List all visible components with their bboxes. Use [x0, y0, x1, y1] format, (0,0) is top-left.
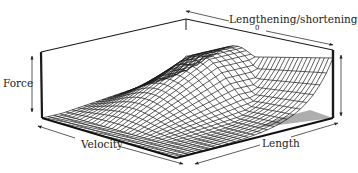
lengthening-arrow-left	[186, 11, 229, 21]
velocity-arrow-left	[38, 126, 75, 138]
plot-box	[41, 19, 333, 118]
lengthening-shortening-axis-label: Lengthening/shortening	[229, 14, 358, 25]
velocity-axis-label: Velocity	[81, 139, 123, 150]
force-axis-label: Force	[3, 78, 33, 89]
zero-velocity-tick: 0	[255, 25, 259, 32]
velocity-arrow-right	[118, 146, 183, 164]
length-arrow-right	[291, 123, 338, 137]
length-axis-label: Length	[262, 138, 300, 149]
